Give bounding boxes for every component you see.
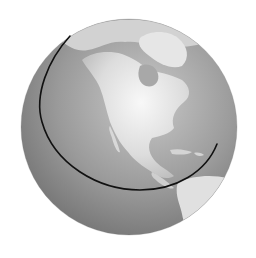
globe-illustration — [0, 0, 256, 258]
globe-svg — [0, 0, 256, 258]
south-america — [177, 176, 236, 238]
